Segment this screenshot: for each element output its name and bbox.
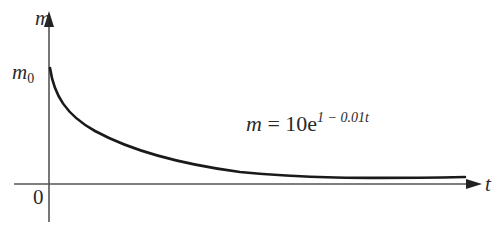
m-axis-label: m [35, 6, 50, 31]
initial-value-base: m [12, 60, 27, 84]
equation-lhs: m [246, 111, 262, 136]
equation-coefficient: 10e [285, 111, 317, 136]
origin-label: 0 [33, 185, 44, 210]
equation-label: m = 10e1 − 0.01t [246, 110, 369, 137]
initial-value-subscript: 0 [27, 71, 34, 86]
equation-equals: = [267, 111, 279, 136]
equation-exponent: 1 − 0.01t [317, 110, 369, 125]
t-axis-arrowhead-icon [466, 179, 482, 189]
t-axis-label: t [485, 172, 491, 197]
initial-value-label: m0 [12, 60, 34, 87]
